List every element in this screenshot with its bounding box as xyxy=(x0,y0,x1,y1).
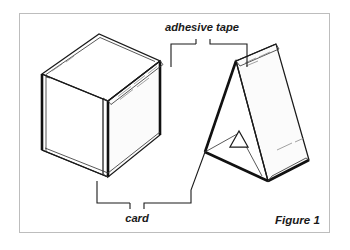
figure-diagram: adhesive tape card Figure 1 xyxy=(0,0,350,250)
figure-caption: Figure 1 xyxy=(275,213,320,226)
adhesive-tape-label: adhesive tape xyxy=(165,21,239,33)
figure-container: adhesive tape card Figure 1 xyxy=(0,0,350,250)
card-label: card xyxy=(125,212,150,224)
